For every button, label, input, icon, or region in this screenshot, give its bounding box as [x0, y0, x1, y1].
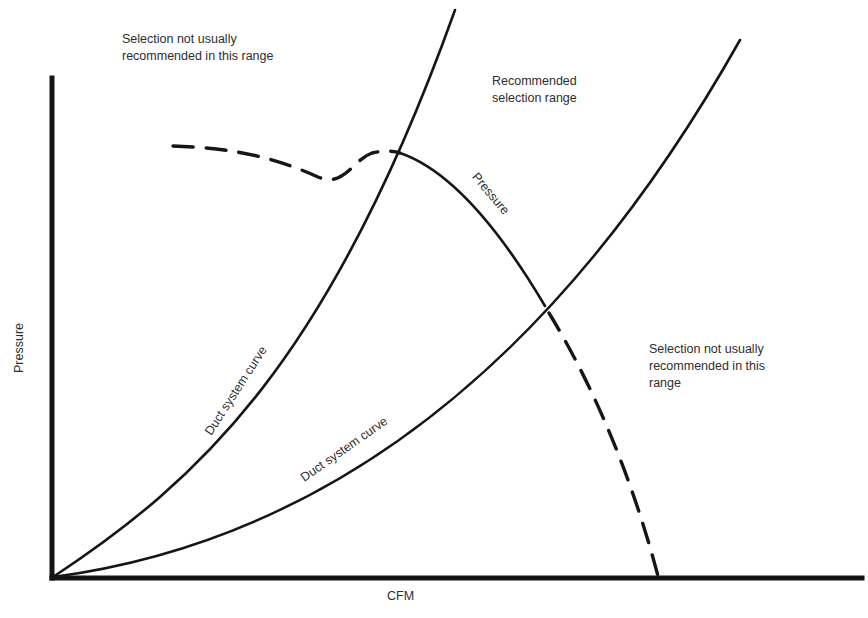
y-axis-label: Pressure [12, 323, 26, 373]
fan-selection-chart [0, 0, 868, 618]
pressure-curve-dashed-left [173, 146, 400, 180]
duct-system-curve-steep [53, 10, 455, 577]
duct-system-curve-shallow [53, 40, 740, 577]
pressure-curve-dashed-right [549, 313, 658, 576]
x-axis-label: CFM [387, 588, 414, 605]
top-left-region-label: Selection not usually recommended in thi… [122, 31, 273, 65]
recommended-region-label: Recommended selection range [492, 73, 577, 107]
bottom-right-region-label: Selection not usually recommended in thi… [649, 341, 765, 392]
